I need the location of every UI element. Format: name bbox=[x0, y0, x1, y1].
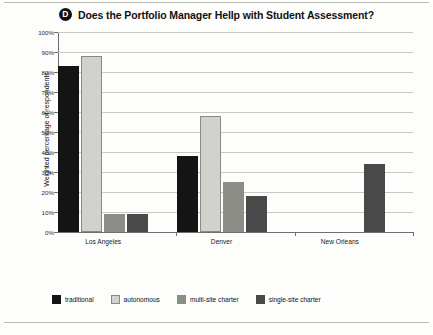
bar-new-orleans-single-site-charter bbox=[364, 164, 385, 232]
bar-los-angeles-multi-site-charter bbox=[104, 214, 125, 232]
page-rule-top bbox=[4, 2, 429, 3]
y-tick-label: 60% bbox=[26, 109, 54, 116]
x-axis-line bbox=[58, 232, 414, 233]
bar-denver-autonomous bbox=[200, 116, 221, 232]
panel-letter-badge: D bbox=[59, 8, 72, 21]
chart-title: Does the Portfolio Manager Hellp with St… bbox=[78, 9, 374, 21]
x-category-label: Los Angeles bbox=[85, 238, 121, 245]
bar-denver-single-site-charter bbox=[246, 196, 267, 232]
legend-label: single-site charter bbox=[269, 296, 321, 303]
bars-layer bbox=[58, 32, 413, 232]
legend-label: traditional bbox=[65, 296, 94, 303]
y-tick-label: 100% bbox=[26, 29, 54, 36]
legend-swatch-icon bbox=[177, 295, 186, 304]
legend-item-single-site-charter[interactable]: single-site charter bbox=[256, 295, 321, 304]
legend-swatch-icon bbox=[111, 295, 120, 304]
y-tick-label: 20% bbox=[26, 189, 54, 196]
x-category-label: Denver bbox=[211, 238, 232, 245]
chart-legend: traditionalautonomousmulti-site charters… bbox=[52, 295, 321, 304]
legend-swatch-icon bbox=[52, 295, 61, 304]
legend-label: autonomous bbox=[124, 296, 160, 303]
bar-denver-traditional bbox=[177, 156, 198, 232]
x-tick-mark bbox=[176, 232, 177, 236]
chart-page: D Does the Portfolio Manager Hellp with … bbox=[0, 0, 433, 335]
y-tick-mark bbox=[54, 232, 58, 233]
page-rule-bottom bbox=[4, 322, 429, 323]
legend-item-multi-site-charter[interactable]: multi-site charter bbox=[177, 295, 239, 304]
y-tick-label: 70% bbox=[26, 89, 54, 96]
chart-title-row: D Does the Portfolio Manager Hellp with … bbox=[0, 8, 433, 21]
y-tick-label: 30% bbox=[26, 169, 54, 176]
x-tick-mark bbox=[295, 232, 296, 236]
bar-los-angeles-traditional bbox=[58, 66, 79, 232]
y-tick-label: 90% bbox=[26, 49, 54, 56]
y-tick-label: 50% bbox=[26, 129, 54, 136]
bar-los-angeles-single-site-charter bbox=[127, 214, 148, 232]
y-tick-label: 0% bbox=[26, 229, 54, 236]
y-tick-label: 80% bbox=[26, 69, 54, 76]
legend-item-autonomous[interactable]: autonomous bbox=[111, 295, 160, 304]
bar-denver-multi-site-charter bbox=[223, 182, 244, 232]
y-tick-label: 40% bbox=[26, 149, 54, 156]
x-category-label: New Orleans bbox=[321, 238, 359, 245]
y-tick-label: 10% bbox=[26, 209, 54, 216]
legend-label: multi-site charter bbox=[190, 296, 239, 303]
legend-item-traditional[interactable]: traditional bbox=[52, 295, 94, 304]
bar-los-angeles-autonomous bbox=[81, 56, 102, 232]
legend-swatch-icon bbox=[256, 295, 265, 304]
x-tick-mark bbox=[413, 232, 414, 236]
